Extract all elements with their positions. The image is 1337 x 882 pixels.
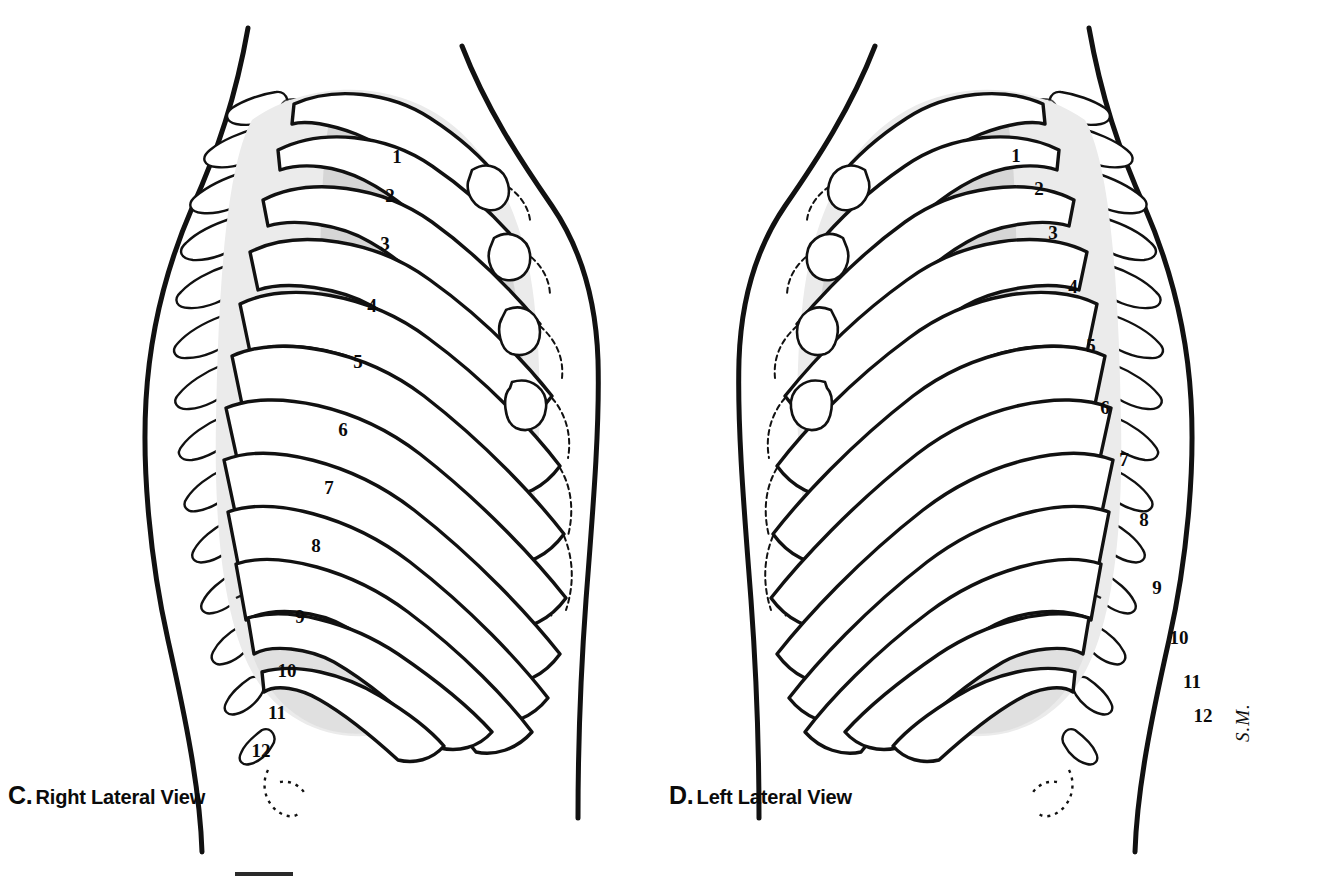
caption-letter-c: C. [8,781,33,809]
rib-label-11: 11 [268,702,286,723]
rib-label-2: 2 [1034,178,1044,199]
panel-left-lateral-view: 1 2 3 4 5 6 7 8 9 10 11 12 [669,0,1337,882]
rib-label-8: 8 [311,535,321,556]
rib-label-3: 3 [1048,222,1058,243]
rib-label-4: 4 [1068,276,1078,297]
rib-label-6: 6 [338,419,348,440]
caption-text-c: Right Lateral View [36,786,205,808]
rib-label-8: 8 [1139,509,1149,530]
rib-label-2: 2 [385,185,395,206]
rib-label-3: 3 [380,233,390,254]
rib-label-9: 9 [1152,577,1162,598]
rib-label-12: 12 [252,740,271,761]
rib-label-5: 5 [353,351,363,372]
right-lateral-rib-cage-illustration: 1 2 3 4 5 6 7 8 9 10 11 12 [0,0,668,882]
rib-label-10: 10 [278,660,297,681]
caption-text-d: Left Lateral View [697,786,852,808]
caption-panel-d: D.Left Lateral View [669,781,852,810]
caption-letter-d: D. [669,781,694,809]
figure-stage: 1 2 3 4 5 6 7 8 9 10 11 12 [0,0,1337,882]
scale-bar [235,872,293,876]
artist-signature: S.M. [1232,703,1254,742]
caption-panel-c: C.Right Lateral View [8,781,205,810]
rib-label-5: 5 [1086,335,1096,356]
rib-label-7: 7 [1119,449,1129,470]
rib-label-1: 1 [392,146,402,167]
rib-label-12: 12 [1194,705,1213,726]
rib-label-9: 9 [295,606,305,627]
rib-label-10: 10 [1170,627,1189,648]
rib-label-7: 7 [324,477,334,498]
rib-label-1: 1 [1011,145,1021,166]
left-lateral-rib-cage-illustration: 1 2 3 4 5 6 7 8 9 10 11 12 [669,0,1337,882]
rib-label-11: 11 [1183,671,1201,692]
rib-label-4: 4 [367,295,377,316]
panel-right-lateral-view: 1 2 3 4 5 6 7 8 9 10 11 12 [0,0,668,882]
rib-label-6: 6 [1100,397,1110,418]
